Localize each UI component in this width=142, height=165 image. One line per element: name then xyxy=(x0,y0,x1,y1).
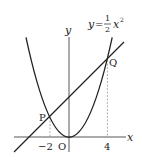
equation-label: y = 1 2 x 2 xyxy=(87,14,124,34)
eq-lhs: y xyxy=(87,18,95,31)
origin-label: O xyxy=(58,141,66,152)
x-axis-label: x xyxy=(127,131,134,144)
eq-frac-den: 2 xyxy=(105,25,110,34)
eq-sign: = xyxy=(95,19,103,30)
point-p-label: P xyxy=(39,112,46,123)
eq-frac-num: 1 xyxy=(105,14,110,23)
eq-var: x xyxy=(113,18,120,31)
diagram: y x O −2 4 P Q y = 1 2 x 2 xyxy=(0,0,142,165)
point-q-label: Q xyxy=(109,57,117,68)
eq-exp: 2 xyxy=(120,16,124,23)
tick-neg2: −2 xyxy=(38,141,53,152)
y-axis-label: y xyxy=(64,24,72,37)
tick-4: 4 xyxy=(104,141,110,152)
